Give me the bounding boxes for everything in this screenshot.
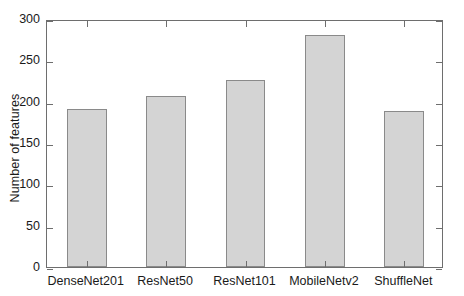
bar — [146, 96, 186, 267]
x-axis-tick-label: ResNet101 — [213, 274, 276, 288]
bar — [67, 109, 107, 267]
y-axis-tick — [47, 228, 53, 229]
y-axis-tick-label: 150 — [19, 136, 40, 150]
x-axis-tick-top — [325, 21, 326, 27]
x-axis-tick-label: DenseNet201 — [47, 274, 123, 288]
x-axis-tick — [87, 261, 88, 267]
y-axis-tick-right — [436, 228, 442, 229]
bar — [226, 80, 266, 267]
y-axis-tick — [47, 145, 53, 146]
x-axis-tick — [404, 261, 405, 267]
y-axis-tick — [47, 104, 53, 105]
y-axis-tick-right — [436, 62, 442, 63]
bar — [384, 111, 424, 267]
y-axis-tick-label: 250 — [19, 53, 40, 67]
y-axis-tick-right — [436, 145, 442, 146]
bar-chart-figure: Number of features 050100150200250300Den… — [0, 0, 464, 296]
x-axis-tick-label: ResNet50 — [137, 274, 193, 288]
y-axis-tick-label: 100 — [19, 177, 40, 191]
y-axis-tick-label: 200 — [19, 95, 40, 109]
x-axis-tick-top — [166, 21, 167, 27]
y-axis-tick-right — [436, 21, 442, 22]
y-axis-tick-right — [436, 269, 442, 270]
x-axis-tick-top — [404, 21, 405, 27]
x-axis-tick — [325, 261, 326, 267]
bar — [305, 35, 345, 267]
x-axis-tick-label: ShuffleNet — [374, 274, 432, 288]
y-axis-tick-label: 300 — [19, 12, 40, 26]
y-axis-tick-label: 50 — [26, 219, 40, 233]
x-axis-tick-label: MobileNetv2 — [289, 274, 358, 288]
y-axis-tick — [47, 186, 53, 187]
x-axis-tick — [246, 261, 247, 267]
x-axis-tick-top — [246, 21, 247, 27]
x-axis-tick-top — [87, 21, 88, 27]
y-axis-tick — [47, 62, 53, 63]
y-axis-tick — [47, 21, 53, 22]
y-axis-tick — [47, 269, 53, 270]
y-axis-tick-right — [436, 186, 442, 187]
y-axis-tick-label: 0 — [33, 260, 40, 274]
plot-area — [46, 20, 443, 268]
x-axis-tick — [166, 261, 167, 267]
y-axis-tick-right — [436, 104, 442, 105]
